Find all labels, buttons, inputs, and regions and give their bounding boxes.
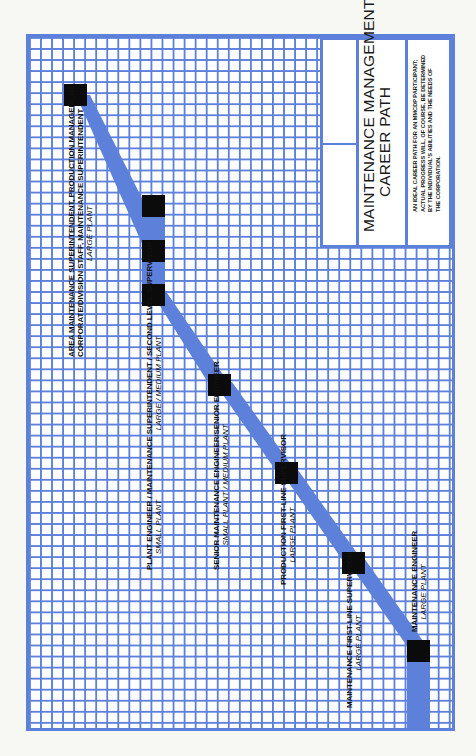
milestone-second-level-supervisor <box>142 195 165 217</box>
chart-title: MAINTENANCE MANAGEMENT CAREER PATH <box>361 52 393 232</box>
label-maintenance-engineer: MAINTENANCE ENGINEER LARGE PLANT <box>410 552 428 632</box>
blank-column <box>323 40 359 245</box>
milestone-maintenance-engineer <box>407 640 430 662</box>
label-maintenance-supervisor: MAINTENANCE FIRST-LINE SUPERVISOR LARGE … <box>345 578 363 708</box>
label-production-supervisor: PRODUCTION FIRST-LINE SUPERVISOR LARGE P… <box>279 485 297 585</box>
label-senior-maintenance-engineer: SENIOR MAINTENANCE ENGINEER/SENIOR ENGIN… <box>212 400 230 570</box>
label-area-superintendent: AREA MAINTENANCE SUPERINTENDENT, PRODUCT… <box>67 110 94 357</box>
divider <box>323 143 356 145</box>
chart-description: AN IDEAL CAREER PATH FOR AN MMCDP PARTIC… <box>412 55 442 212</box>
label-plant-engineer: PLANT ENGINEER / MAINTENANCE SUPERINTEND… <box>145 310 163 570</box>
